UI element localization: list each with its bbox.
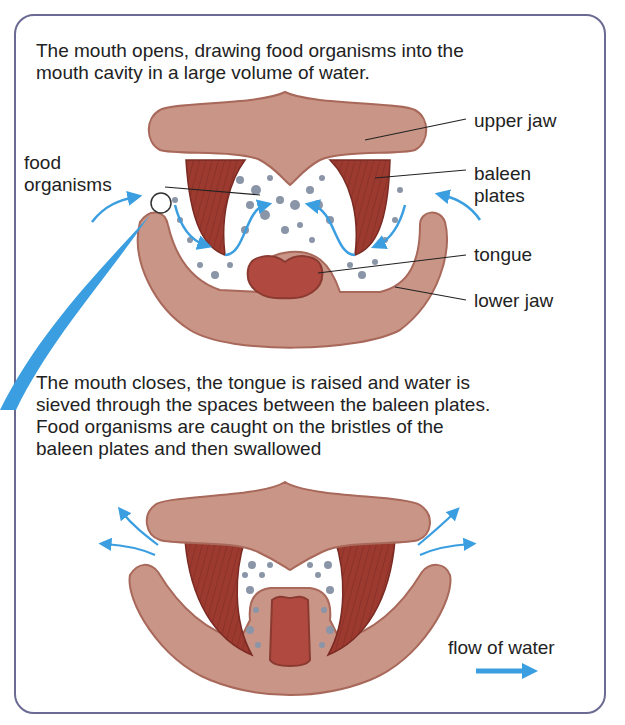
closed-mouth-diagram bbox=[105, 482, 470, 695]
label-plates: plates bbox=[474, 185, 531, 207]
bottom-caption-line-1: The mouth closes, the tongue is raised a… bbox=[36, 372, 490, 394]
bottom-caption-line-2: sieved through the spaces between the ba… bbox=[36, 394, 490, 416]
label-baleen: baleen bbox=[474, 163, 531, 185]
label-organisms: organisms bbox=[24, 174, 112, 196]
bottom-caption-line-4: baleen plates and then swallowed bbox=[36, 438, 490, 460]
bottom-caption: The mouth closes, the tongue is raised a… bbox=[36, 372, 490, 460]
label-food-organisms: food organisms bbox=[24, 152, 112, 196]
diagram-svg bbox=[0, 0, 625, 725]
legend-flow-of-water: flow of water bbox=[448, 637, 555, 659]
bottom-caption-line-3: Food organisms are caught on the bristle… bbox=[36, 416, 490, 438]
label-tongue: tongue bbox=[474, 244, 532, 266]
tongue-shape-2 bbox=[270, 597, 310, 666]
tongue-shape bbox=[248, 256, 323, 298]
label-lower-jaw: lower jaw bbox=[474, 290, 553, 312]
label-baleen-plates: baleen plates bbox=[474, 163, 531, 207]
magnify-circle bbox=[151, 193, 171, 213]
right-arrow-icon bbox=[476, 663, 538, 679]
open-mouth-diagram bbox=[0, 92, 480, 410]
label-food: food bbox=[24, 152, 112, 174]
label-upper-jaw: upper jaw bbox=[474, 110, 556, 132]
